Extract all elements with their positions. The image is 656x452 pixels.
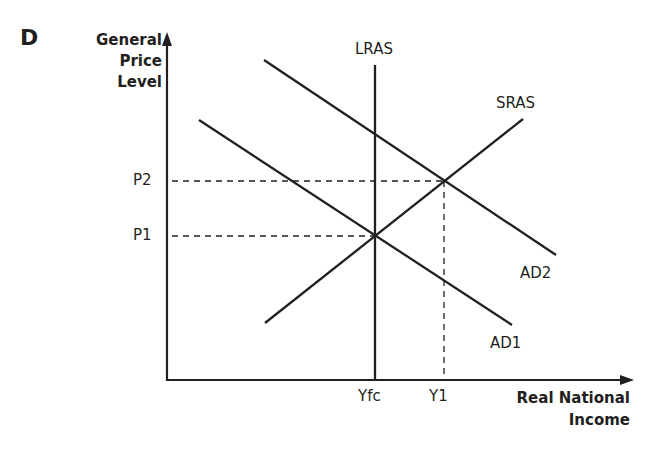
guide-lines (172, 181, 444, 380)
y-axis-arrow-icon (162, 32, 172, 46)
ad2-label: AD2 (520, 264, 551, 282)
sras-curve (265, 119, 523, 323)
y1-label: Y1 (429, 387, 448, 405)
lras-label: LRAS (355, 40, 393, 58)
ad1-curve (199, 120, 512, 325)
sras-label: SRAS (496, 94, 535, 112)
p1-label: P1 (133, 226, 152, 244)
ad2-curve (264, 60, 556, 255)
yfc-label: Yfc (358, 387, 381, 405)
axes (166, 44, 624, 381)
x-axis-arrow-icon (620, 375, 634, 385)
p2-label: P2 (133, 171, 152, 189)
chart-plot (0, 0, 656, 452)
ad1-label: AD1 (490, 334, 521, 352)
